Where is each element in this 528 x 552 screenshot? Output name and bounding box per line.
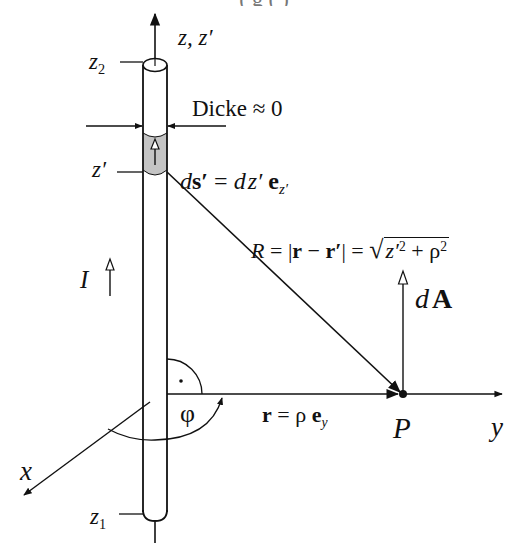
ds-equation: ds′ = dz′ ez′ <box>180 169 288 197</box>
r-vector-label: r = ρ ey <box>262 404 327 429</box>
x-axis <box>24 407 143 495</box>
dA-arrow-icon <box>399 271 408 392</box>
z-axis-label: z, z′ <box>178 26 212 49</box>
phi-label: φ <box>180 401 195 427</box>
R-equation: R = |r − r′| = √z′2 + ρ2 <box>251 237 449 263</box>
current-label: I <box>80 267 88 292</box>
current-arrow-icon <box>106 259 114 296</box>
right-angle-dot <box>179 379 183 383</box>
zprime-label: z′ <box>92 158 106 181</box>
phi-arc <box>108 398 222 440</box>
distance-vector-R <box>167 172 400 392</box>
conductor-cylinder <box>143 59 167 522</box>
y-axis-label: y <box>491 414 503 441</box>
cropped-heading: ( g ( ) <box>0 0 528 6</box>
x-axis-label: x <box>20 458 32 485</box>
z2-label: z2 <box>89 50 105 76</box>
P-label: P <box>393 414 411 443</box>
z1-label: z1 <box>90 505 106 531</box>
x-axis-upper <box>143 402 150 407</box>
right-angle-arc <box>167 359 202 394</box>
thickness-label: Dicke ≈ 0 <box>192 97 283 120</box>
dA-label: dA <box>415 285 452 313</box>
